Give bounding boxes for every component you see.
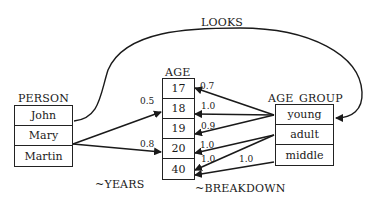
weight-mary-20: 0.8 <box>140 140 154 149</box>
age-item-19[interactable]: 19 <box>163 119 194 139</box>
age-item-40[interactable]: 40 <box>163 159 194 179</box>
relation-breakdown-label: ~BREAKDOWN <box>195 183 286 194</box>
age-group-item-young[interactable]: young <box>276 105 333 125</box>
weight-mary-18: 0.5 <box>140 97 154 106</box>
weight-young-18: 1.0 <box>201 102 215 111</box>
age-group-item-middle[interactable]: middle <box>276 145 333 165</box>
edge-young-18 <box>195 114 274 115</box>
entity-age-group-table: young adult middle <box>275 104 334 166</box>
weight-middle-40: 1.0 <box>239 155 253 164</box>
entity-age-table: 17 18 19 20 40 <box>162 78 195 180</box>
age-item-20[interactable]: 20 <box>163 139 194 159</box>
entity-person-title: PERSON <box>18 93 69 104</box>
relation-years-label: ~YEARS <box>95 179 144 190</box>
entity-person-table: John Mary Martin <box>14 105 73 167</box>
age-group-item-adult[interactable]: adult <box>276 125 333 145</box>
entity-age-group-title: AGE_GROUP <box>268 93 343 104</box>
person-item-martin[interactable]: Martin <box>15 146 72 166</box>
entity-age-title: AGE <box>165 67 190 78</box>
relation-looks-label: LOOKS <box>201 17 243 28</box>
person-item-john[interactable]: John <box>15 106 72 126</box>
weight-adult-40: 1.0 <box>201 155 215 164</box>
age-item-17[interactable]: 17 <box>163 79 194 99</box>
weight-young-17: 0.7 <box>200 82 214 91</box>
weight-young-19: 0.9 <box>201 122 215 131</box>
age-item-18[interactable]: 18 <box>163 99 194 119</box>
person-item-mary[interactable]: Mary <box>15 126 72 146</box>
weight-adult-20: 1.0 <box>200 141 214 150</box>
